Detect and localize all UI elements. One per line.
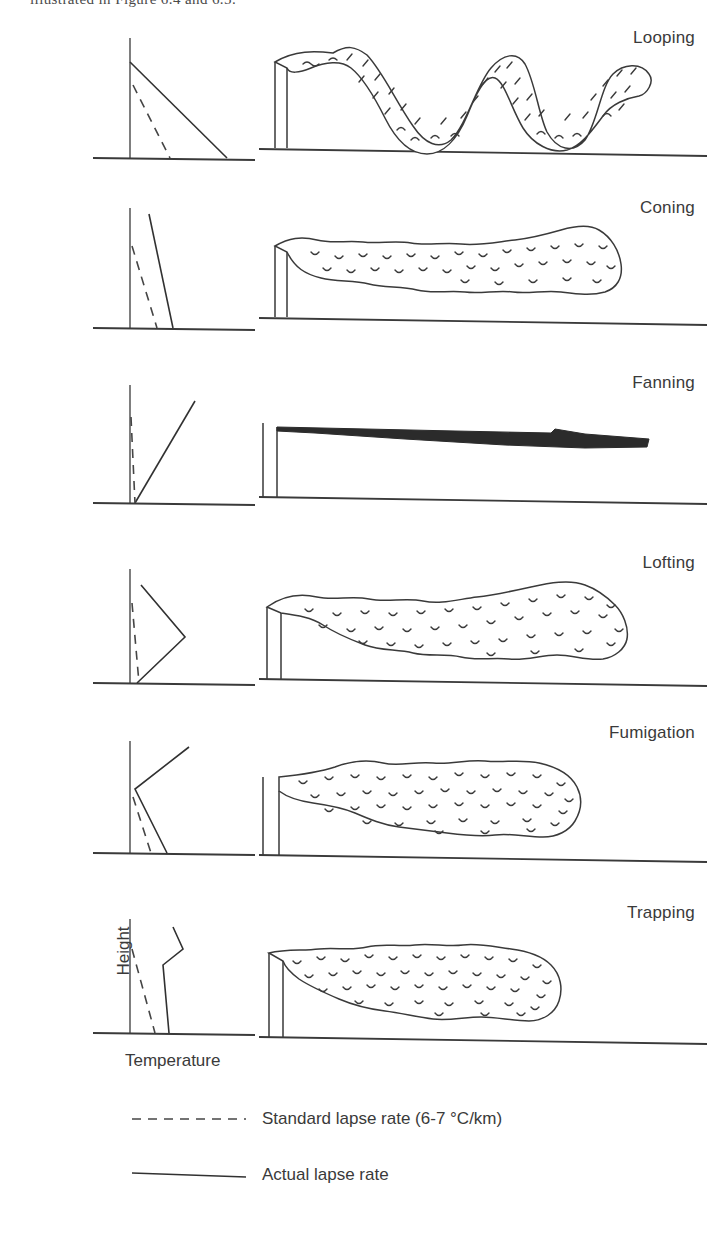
ground-axis-line <box>93 328 255 330</box>
smokestack <box>263 777 279 855</box>
profile-plot-lofting <box>85 555 260 700</box>
profile-plot-fanning <box>85 375 260 520</box>
plume-outline-looping <box>275 48 651 154</box>
scene-plot-lofting <box>255 545 709 710</box>
legend-label-actual-lapse: Actual lapse rate <box>262 1165 389 1185</box>
ground-line <box>259 855 707 862</box>
panel-trapping: Height Temperature <box>0 895 709 1065</box>
panel-fumigation: Fumigation <box>0 715 709 885</box>
ground-axis-line <box>93 1033 255 1035</box>
y-axis-label: Height <box>114 906 134 996</box>
profile-plot-trapping: Height Temperature <box>85 905 260 1050</box>
smokestack <box>263 423 277 497</box>
ground-line <box>259 1037 707 1044</box>
actual-lapse-line <box>130 62 227 158</box>
legend: Standard lapse rate (6-7 °C/km) Actual l… <box>0 1098 709 1208</box>
plume-outline-fumigation <box>279 761 581 837</box>
ground-line <box>259 679 707 686</box>
standard-lapse-line <box>132 246 157 328</box>
solid-line-swatch <box>130 1168 248 1182</box>
legend-item-standard-lapse: Standard lapse rate (6-7 °C/km) <box>130 1104 502 1134</box>
plume-outline-lofting <box>267 582 627 659</box>
ground-axis-line <box>93 158 255 160</box>
ground-line <box>259 149 707 156</box>
actual-lapse-line <box>137 585 185 683</box>
ground-axis-line <box>93 683 255 685</box>
standard-lapse-line <box>133 797 151 853</box>
smokestack <box>267 607 281 679</box>
legend-label-standard-lapse: Standard lapse rate (6-7 °C/km) <box>262 1109 502 1129</box>
ground-axis-line <box>93 853 255 855</box>
actual-lapse-line <box>135 401 195 503</box>
actual-lapse-line <box>163 927 183 1033</box>
ground-line <box>259 318 707 325</box>
actual-lapse-line <box>135 747 189 853</box>
ground-line <box>259 497 707 504</box>
panel-label-looping: Looping <box>633 28 695 48</box>
panel-looping: Looping <box>0 20 709 190</box>
panel-label-trapping: Trapping <box>627 903 695 923</box>
panel-label-fanning: Fanning <box>632 373 695 393</box>
cropped-caption-fragment: illustrated in Figure 6.4 and 6.5. <box>30 0 360 7</box>
panel-lofting: Lofting <box>0 545 709 715</box>
ground-axis-line <box>93 503 255 505</box>
panel-label-coning: Coning <box>640 198 695 218</box>
panel-coning: Coning <box>0 190 709 360</box>
legend-item-actual-lapse: Actual lapse rate <box>130 1160 389 1190</box>
x-axis-label: Temperature <box>125 1051 220 1071</box>
panel-label-fumigation: Fumigation <box>609 723 695 743</box>
profile-plot-looping <box>85 30 260 175</box>
standard-lapse-line <box>132 603 139 683</box>
plume-solid-fanning <box>277 427 649 448</box>
panel-label-lofting: Lofting <box>643 553 695 573</box>
plume-outline-trapping <box>269 944 561 1021</box>
panel-fanning: Fanning <box>0 365 709 535</box>
plume-outline-coning <box>275 226 621 294</box>
smokestack <box>275 246 287 317</box>
profile-plot-fumigation <box>85 725 260 870</box>
smokestack <box>275 62 287 148</box>
standard-lapse-line <box>131 417 135 503</box>
dashed-line-swatch <box>130 1112 248 1126</box>
smokestack <box>269 953 283 1037</box>
standard-lapse-line <box>132 949 155 1033</box>
profile-plot-coning <box>85 200 260 345</box>
